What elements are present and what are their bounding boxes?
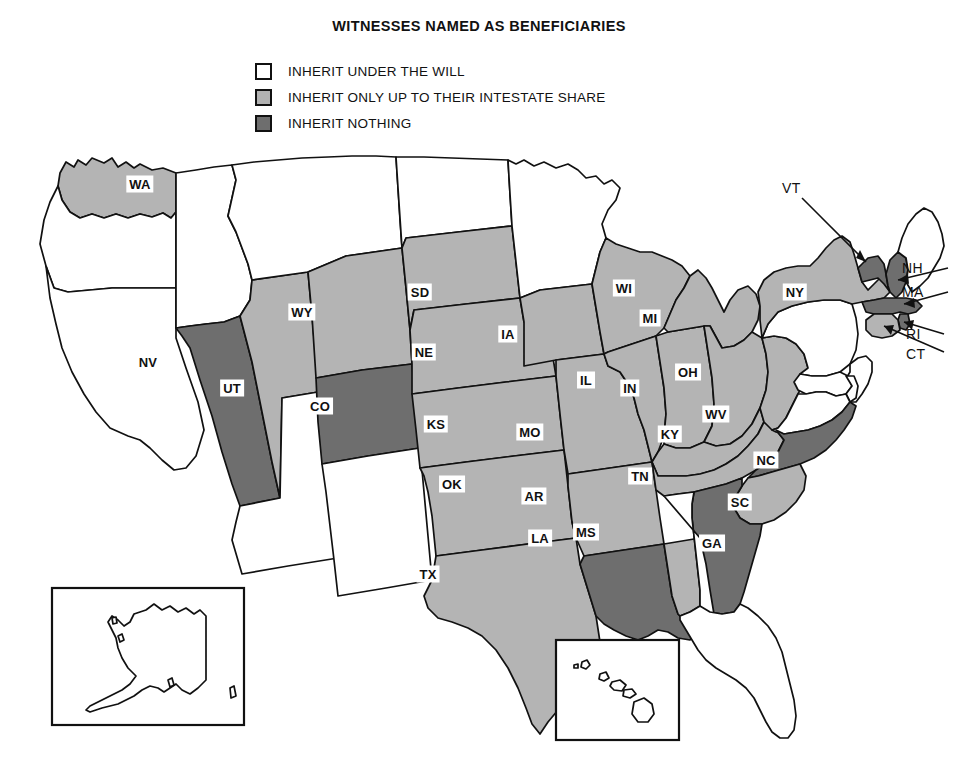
legend-label-inherit-under-will: INHERIT UNDER THE WILL [288, 64, 465, 79]
state-label-SC: SC [728, 494, 752, 511]
legend-label-inherit-intestate-share: INHERIT ONLY UP TO THEIR INTESTATE SHARE [288, 90, 606, 105]
state-label-WA: WA [126, 176, 153, 193]
state-label-KY: KY [658, 426, 682, 443]
legend: INHERIT UNDER THE WILL INHERIT ONLY UP T… [255, 58, 606, 136]
page-title: WITNESSES NAMED AS BENEFICIARIES [0, 18, 958, 34]
legend-item-inherit-intestate-share: INHERIT ONLY UP TO THEIR INTESTATE SHARE [255, 84, 606, 110]
state-label-MS: MS [573, 524, 599, 541]
state-label-OH: OH [675, 364, 701, 381]
state-label-IA: IA [498, 326, 517, 343]
state-CT [866, 314, 900, 338]
state-label-WI: WI [613, 280, 635, 297]
state-label-MI: MI [640, 310, 661, 327]
callout-label-VT: VT [782, 180, 801, 196]
callout-label-NH: NH [902, 260, 923, 276]
legend-swatch-white [255, 63, 272, 80]
state-label-WV: WV [702, 406, 729, 423]
legend-item-inherit-under-will: INHERIT UNDER THE WILL [255, 58, 606, 84]
state-HI-island-2 [599, 672, 609, 681]
alaska-island-3 [168, 678, 174, 687]
alaska-island-1 [118, 634, 124, 642]
state-WY [308, 248, 412, 378]
state-label-NE: NE [412, 344, 436, 361]
callout-label-CT: CT [906, 346, 925, 362]
state-label-UT: UT [220, 380, 244, 397]
legend-item-inherit-nothing: INHERIT NOTHING [255, 110, 606, 136]
state-label-MO: MO [516, 424, 543, 441]
callout-label-RI: RI [906, 326, 921, 342]
state-label-IL: IL [577, 372, 595, 389]
state-WA [58, 158, 176, 218]
state-label-TX: TX [416, 566, 439, 583]
state-label-NY: NY [783, 284, 807, 301]
state-IA [520, 284, 604, 366]
alaska-island-4 [230, 686, 236, 698]
state-label-CO: CO [307, 398, 333, 415]
state-label-SD: SD [408, 284, 432, 301]
legend-label-inherit-nothing: INHERIT NOTHING [288, 116, 412, 131]
callout-label-MA: MA [902, 284, 924, 300]
map-canvas: WA NV UT WY CO SD NE KS OK TX IA MO AR L… [0, 140, 958, 767]
state-label-KS: KS [424, 416, 448, 433]
state-label-WY: WY [288, 304, 315, 321]
state-label-OK: OK [439, 476, 465, 493]
state-label-AR: AR [521, 488, 546, 505]
state-HI-island-0 [574, 664, 578, 668]
legend-swatch-dark-gray [255, 115, 272, 132]
us-choropleth-map-figure: WITNESSES NAMED AS BENEFICIARIES INHERIT… [0, 0, 958, 767]
alaska-island-2 [112, 617, 117, 624]
state-FL [680, 604, 796, 738]
legend-swatch-light-gray [255, 89, 272, 106]
state-label-TN: TN [628, 468, 652, 485]
state-label-NV: NV [136, 354, 160, 371]
state-label-IN: IN [620, 380, 639, 397]
state-label-NC: NC [753, 452, 778, 469]
state-label-GA: GA [699, 535, 725, 552]
state-label-LA: LA [528, 530, 552, 547]
